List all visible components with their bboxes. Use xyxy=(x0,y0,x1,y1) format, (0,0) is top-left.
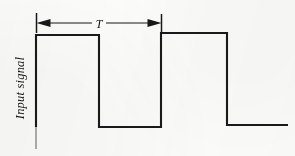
y-axis-label-group: Input signal xyxy=(13,56,27,120)
arrow-left-icon xyxy=(37,19,51,27)
y-axis-label: Input signal xyxy=(13,56,27,120)
arrow-right-icon xyxy=(148,19,162,27)
signal-diagram-canvas: T Input signal xyxy=(0,0,295,156)
signal-diagram-figure: T Input signal xyxy=(0,0,295,156)
period-dimension-group: T xyxy=(37,13,162,33)
input-signal-waveform xyxy=(36,33,288,127)
